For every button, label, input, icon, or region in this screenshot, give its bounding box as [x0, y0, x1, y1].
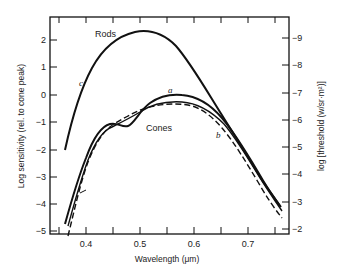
- y-tick-label: −2: [36, 145, 46, 155]
- y-right-tick-label: −2: [292, 224, 302, 234]
- minor-dash-mark: [80, 190, 86, 193]
- rods-label: Rods: [95, 29, 117, 39]
- y-tick-label: −3: [36, 172, 46, 182]
- left-ticks: [50, 40, 57, 231]
- cones-curve-b-dashed: [68, 104, 282, 236]
- y-right-tick-label: −7: [292, 88, 302, 98]
- y-right-axis-title: log [threshold (w/sr·m²)]: [316, 81, 326, 171]
- x-axis-title: Wavelength (μm): [135, 254, 200, 264]
- y-axis-title: Log sensitivity (rel. to cone peak): [16, 64, 26, 188]
- rods-curve: [65, 31, 280, 206]
- y-tick-label: −4: [36, 199, 46, 209]
- y-right-tick-label: −4: [292, 169, 302, 179]
- x-tick-labels: 0.4 0.5 0.6 0.7: [80, 239, 255, 249]
- y-tick-label: 2: [41, 35, 46, 45]
- curve-label-a: a: [168, 85, 173, 95]
- top-ticks: [59, 17, 275, 23]
- y-right-tick-label: −5: [292, 142, 302, 152]
- y-right-tick-label: −9: [292, 33, 302, 43]
- y-tick-label: 1: [41, 62, 46, 72]
- x-tick-label: 0.4: [80, 239, 93, 249]
- bottom-ticks: [59, 227, 275, 234]
- y-right-tick-label: −8: [292, 60, 302, 70]
- right-ticks: [282, 38, 289, 229]
- curve-label-c: c: [79, 78, 83, 88]
- x-tick-label: 0.5: [134, 239, 147, 249]
- y-tick-label: −5: [36, 226, 46, 236]
- y-right-tick-label: −3: [292, 197, 302, 207]
- cones-curve-a-outer: [68, 102, 282, 226]
- left-tick-labels: 2 1 0 −1 −2 −3 −4 −5: [36, 35, 46, 236]
- y-right-tick-label: −6: [292, 115, 302, 125]
- right-tick-labels: −9 −8 −7 −6 −5 −4 −3 −2: [292, 33, 302, 234]
- cones-label: Cones: [146, 123, 173, 133]
- spectral-sensitivity-chart: 2 1 0 −1 −2 −3 −4 −5 −9 −8 −7 −6 −5 −4 −…: [0, 0, 342, 274]
- x-tick-label: 0.7: [242, 239, 255, 249]
- curve-label-b: b: [216, 130, 221, 140]
- x-tick-label: 0.6: [188, 239, 201, 249]
- y-tick-label: 0: [41, 90, 46, 100]
- y-tick-label: −1: [36, 117, 46, 127]
